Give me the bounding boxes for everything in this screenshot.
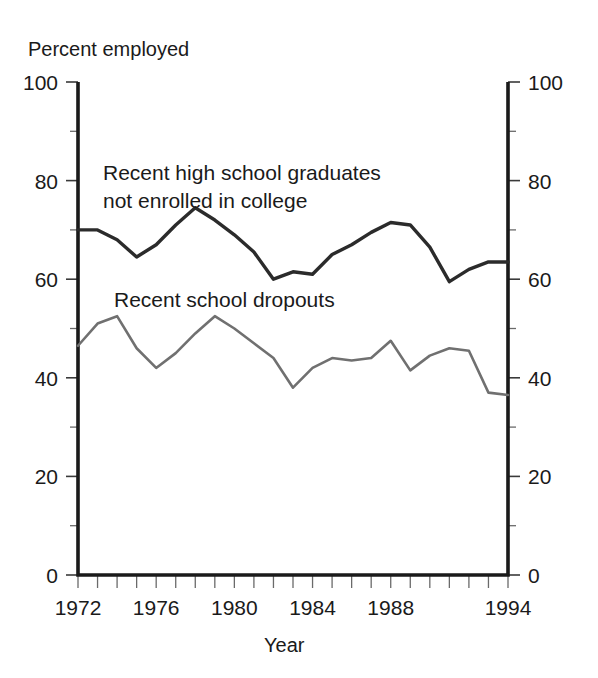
- x-axis-label: 1980: [211, 596, 258, 619]
- y-axis-label-right: 80: [528, 170, 551, 193]
- y-axis-label-left: 20: [35, 465, 58, 488]
- y-axis-label-left: 60: [35, 268, 58, 291]
- annotation-graduates-line1: Recent high school graduates: [103, 161, 381, 184]
- annotation-graduates-line2: not enrolled in college: [103, 189, 307, 212]
- y-axis-label-right: 100: [528, 71, 563, 94]
- chart-figure: Percent employed 020406080100 0204060801…: [0, 0, 598, 678]
- x-axis-title: Year: [264, 634, 305, 656]
- y-axis-label-left: 80: [35, 170, 58, 193]
- chart-header-label: Percent employed: [28, 38, 189, 60]
- annotation-dropouts: Recent school dropouts: [114, 288, 335, 311]
- y-axis-label-right: 40: [528, 367, 551, 390]
- y-axis-label-left: 0: [46, 564, 58, 587]
- x-axis-label: 1994: [485, 596, 532, 619]
- y-axis-label-right: 20: [528, 465, 551, 488]
- y-axis-label-right: 0: [528, 564, 540, 587]
- chart-svg: Percent employed 020406080100 0204060801…: [0, 0, 598, 678]
- x-axis-label: 1988: [367, 596, 414, 619]
- x-axis-label: 1976: [133, 596, 180, 619]
- y-axis-label-left: 100: [23, 71, 58, 94]
- y-axis-label-left: 40: [35, 367, 58, 390]
- x-axis-label: 1972: [55, 596, 102, 619]
- y-axis-label-right: 60: [528, 268, 551, 291]
- x-axis-label: 1984: [289, 596, 336, 619]
